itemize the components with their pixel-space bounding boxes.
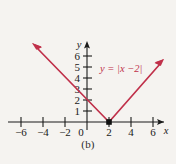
equation-label: y = |x −2| [99, 63, 142, 74]
y-tick-label-2: 2 [75, 94, 81, 106]
x-tick-label--4: −4 [37, 126, 49, 138]
x-tick-label-0: 0 [78, 126, 84, 138]
vertex-point-marker [106, 119, 112, 125]
x-axis-label: x [163, 125, 169, 136]
y-tick-labels: 1 2 3 4 5 6 [75, 50, 81, 117]
y-tick-label-1: 1 [75, 105, 81, 117]
figure-caption: (b) [0, 138, 176, 150]
y-tick-label-5: 5 [75, 61, 81, 73]
x-tick-label-6: 6 [150, 126, 156, 138]
y-tick-label-4: 4 [75, 72, 81, 84]
y-axis-label: y [76, 39, 82, 50]
x-tick-label-2: 2 [106, 126, 112, 138]
x-tick-label-4: 4 [128, 126, 134, 138]
y-tick-label-6: 6 [75, 50, 81, 62]
x-tick-label--6: −6 [15, 126, 27, 138]
x-tick-label--2: −2 [59, 126, 71, 138]
